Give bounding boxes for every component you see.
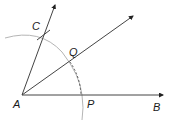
ray-ac: [22, 5, 55, 95]
label-a: A: [12, 98, 20, 110]
label-q: Q: [69, 46, 78, 58]
label-c: C: [32, 20, 40, 32]
label-b: B: [153, 101, 160, 113]
label-p: P: [87, 98, 95, 110]
geometry-diagram: A B C P Q: [0, 0, 179, 120]
